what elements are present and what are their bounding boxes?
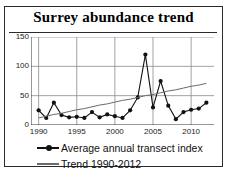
title-divider bbox=[9, 32, 217, 33]
data-point bbox=[204, 101, 208, 105]
plot-area bbox=[31, 37, 214, 125]
y-tick-label: 0 bbox=[25, 121, 29, 129]
y-tick-label: 150 bbox=[16, 33, 29, 41]
x-tick-label: 1990 bbox=[30, 127, 48, 136]
legend-marker-series bbox=[35, 141, 61, 155]
y-tick-label: 50 bbox=[20, 92, 29, 100]
data-point bbox=[105, 112, 109, 116]
data-point bbox=[113, 114, 117, 118]
legend-label-series: Average annual transect index bbox=[61, 142, 203, 154]
x-tick-label: 2000 bbox=[106, 127, 124, 136]
data-point bbox=[75, 115, 79, 119]
legend-marker-trend bbox=[35, 157, 61, 171]
data-point bbox=[98, 115, 102, 119]
data-point bbox=[82, 116, 86, 120]
data-point bbox=[159, 79, 163, 83]
chart-svg bbox=[31, 37, 214, 125]
chart-title: Surrey abundance trend bbox=[5, 9, 222, 26]
y-axis-labels: 050100150 bbox=[7, 35, 29, 127]
data-point bbox=[143, 53, 147, 57]
data-point bbox=[128, 108, 132, 112]
x-tick-label: 2010 bbox=[182, 127, 200, 136]
data-point bbox=[37, 108, 41, 112]
data-point bbox=[166, 104, 170, 108]
series-line bbox=[39, 83, 207, 118]
data-point bbox=[90, 110, 94, 114]
legend-label-trend: Trend 1990-2012 bbox=[61, 158, 141, 170]
x-axis-labels: 19901995200020052010 bbox=[31, 127, 221, 139]
legend-item-trend: Trend 1990-2012 bbox=[35, 156, 221, 172]
x-tick-label: 2005 bbox=[144, 127, 162, 136]
chart-frame: Surrey abundance trend 050100150 1990199… bbox=[4, 6, 223, 167]
data-point bbox=[174, 117, 178, 121]
x-tick-label: 1995 bbox=[68, 127, 86, 136]
data-point bbox=[151, 105, 155, 109]
data-point bbox=[52, 101, 56, 105]
chart-legend: Average annual transect index Trend 1990… bbox=[35, 140, 221, 172]
data-point bbox=[197, 106, 201, 110]
data-point bbox=[67, 115, 71, 119]
data-point bbox=[120, 116, 124, 120]
data-point bbox=[189, 108, 193, 112]
legend-item-series: Average annual transect index bbox=[35, 140, 221, 156]
y-tick-label: 100 bbox=[16, 62, 29, 70]
series-line bbox=[39, 55, 207, 120]
data-point bbox=[181, 110, 185, 114]
